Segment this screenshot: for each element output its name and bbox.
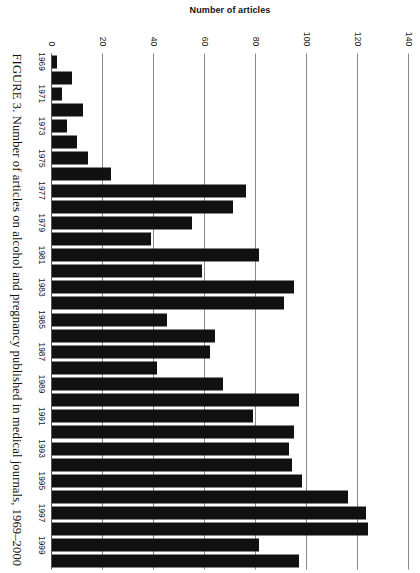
bar (52, 216, 192, 229)
bar-slot (52, 521, 409, 537)
bar-slot (52, 150, 409, 166)
bar-slot (52, 440, 409, 456)
bar-slot (52, 472, 409, 488)
bar-series (52, 53, 409, 569)
figure-caption-years: 1969–2000 (10, 508, 24, 566)
bar (52, 151, 88, 164)
bar (52, 506, 366, 519)
bar-slot (52, 134, 409, 150)
bar-slot (52, 214, 409, 230)
bar-slot (52, 247, 409, 263)
bar (52, 71, 72, 84)
bar-slot (52, 343, 409, 359)
bar (52, 87, 62, 100)
bar (52, 200, 233, 213)
bar (52, 135, 78, 148)
bar (52, 393, 299, 406)
value-tick-140: 140 (404, 0, 414, 46)
bar (52, 103, 83, 116)
category-tick-1997: 1997 (37, 496, 46, 530)
bar (52, 490, 348, 503)
category-tick-1969: 1969 (37, 44, 46, 78)
category-tick-1993: 1993 (37, 431, 46, 465)
bar-slot (52, 505, 409, 521)
bar (52, 264, 202, 277)
category-tick-1989: 1989 (37, 367, 46, 401)
bar (52, 248, 259, 261)
value-tick-40: 40 (149, 0, 159, 46)
bar (52, 184, 246, 197)
bar-slot (52, 53, 409, 69)
category-tick-1977: 1977 (37, 173, 46, 207)
category-tick-1975: 1975 (37, 141, 46, 175)
category-tick-1995: 1995 (37, 463, 46, 497)
bar-slot (52, 424, 409, 440)
bar (52, 345, 210, 358)
bar (52, 538, 259, 551)
bar-slot (52, 327, 409, 343)
category-tick-1987: 1987 (37, 334, 46, 368)
bar-slot (52, 456, 409, 472)
bar-slot (52, 263, 409, 279)
bar-slot (52, 392, 409, 408)
category-tick-1973: 1973 (37, 109, 46, 143)
bar-slot (52, 553, 409, 569)
value-axis-title: Number of articles (190, 4, 271, 14)
figure-caption: FIGURE 3. Number of articles on alcohol … (9, 53, 24, 569)
bar-slot (52, 537, 409, 553)
bar (52, 409, 253, 422)
bar (52, 280, 294, 293)
bar (52, 119, 67, 132)
value-tick-100: 100 (302, 0, 312, 46)
category-tick-1985: 1985 (37, 302, 46, 336)
bar-slot (52, 182, 409, 198)
bar (52, 522, 368, 535)
bar (52, 442, 289, 455)
bar (52, 425, 294, 438)
figure-rotated-frame: 020406080100120140 Number of articles 19… (0, 0, 420, 573)
bar (52, 313, 167, 326)
bar-slot (52, 359, 409, 375)
bar (52, 554, 299, 567)
bar-slot (52, 69, 409, 85)
bar-slot (52, 118, 409, 134)
plot-area (52, 53, 409, 569)
value-tick-20: 20 (98, 0, 108, 46)
bar (52, 296, 284, 309)
bar-slot (52, 279, 409, 295)
bar-slot (52, 376, 409, 392)
figure-number-label: FIGURE 3. (10, 53, 24, 112)
category-tick-1999: 1999 (37, 528, 46, 562)
figure-caption-text: Number of articles on alcohol and pregna… (10, 115, 24, 505)
bar-slot (52, 101, 409, 117)
bar (52, 55, 57, 68)
value-tick-0: 0 (47, 0, 57, 46)
figure-upright-canvas: 020406080100120140 Number of articles 19… (0, 0, 420, 573)
bar-slot (52, 408, 409, 424)
bar (52, 474, 302, 487)
bar-slot (52, 166, 409, 182)
category-tick-1979: 1979 (37, 205, 46, 239)
bar-slot (52, 230, 409, 246)
bar-slot (52, 198, 409, 214)
category-tick-1971: 1971 (37, 76, 46, 110)
bar (52, 377, 223, 390)
bar (52, 361, 157, 374)
value-tick-120: 120 (353, 0, 363, 46)
bar (52, 167, 111, 180)
bar-slot (52, 311, 409, 327)
bar-slot (52, 85, 409, 101)
bar-slot (52, 488, 409, 504)
category-tick-1983: 1983 (37, 270, 46, 304)
bar (52, 232, 151, 245)
bar (52, 329, 215, 342)
category-tick-1991: 1991 (37, 399, 46, 433)
bar-slot (52, 295, 409, 311)
category-tick-1981: 1981 (37, 238, 46, 272)
bar (52, 458, 292, 471)
